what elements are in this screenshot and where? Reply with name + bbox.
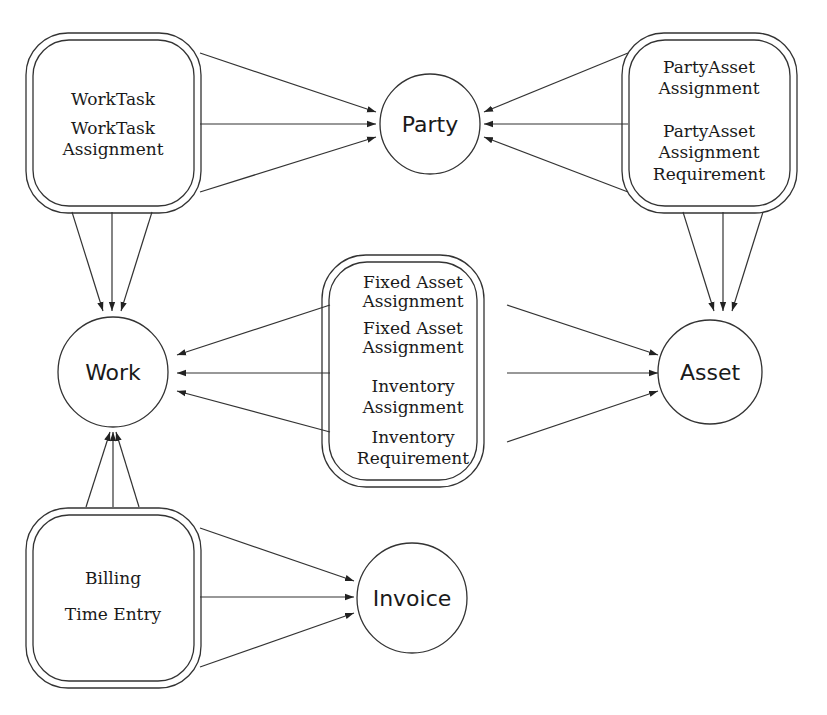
relationship-label: Assignment — [362, 397, 464, 417]
relationship-label: PartyAsset — [663, 121, 755, 141]
edge-fixedasset-asset-1 — [507, 305, 658, 355]
relationship-label: Assignment — [658, 142, 760, 162]
relationship-label: WorkTask — [71, 118, 156, 138]
entity-relationship-diagram: WorkTask WorkTask Assignment PartyAsset … — [0, 0, 827, 715]
relationship-label: Assignment — [62, 139, 164, 159]
entity-label: Work — [85, 360, 141, 385]
edge-partyasset-asset-1 — [683, 212, 714, 311]
relationship-label: Assignment — [658, 78, 760, 98]
entity-label: Invoice — [373, 586, 452, 611]
entity-invoice[interactable]: Invoice — [357, 543, 467, 653]
relationship-label: Inventory — [371, 427, 454, 447]
edge-fixedasset-work-3 — [177, 391, 330, 432]
edge-worktask-party-1 — [200, 53, 376, 112]
entity-party[interactable]: Party — [380, 74, 480, 174]
entity-label: Asset — [680, 360, 741, 385]
edge-worktask-party-3 — [200, 137, 376, 192]
edge-partyasset-party-1 — [484, 53, 628, 112]
entity-label: Party — [402, 112, 458, 137]
relationship-label: Assignment — [362, 291, 464, 311]
edge-billing-invoice-3 — [200, 613, 354, 667]
edge-fixedasset-work-1 — [177, 305, 330, 355]
relationship-label: Inventory — [371, 376, 454, 396]
relationship-label: Requirement — [653, 164, 765, 184]
relationship-label: Requirement — [357, 448, 469, 468]
relationship-label: Fixed Asset — [363, 318, 463, 338]
edge-billing-work-3 — [116, 432, 139, 507]
edge-billing-invoice-1 — [200, 528, 354, 581]
relationship-fixedasset-inventory[interactable]: Fixed Asset Assignment Fixed Asset Assig… — [322, 255, 484, 487]
entity-asset[interactable]: Asset — [658, 320, 762, 424]
edge-billing-work-1 — [86, 432, 110, 507]
edge-partyasset-party-3 — [484, 137, 628, 192]
relationship-label: Time Entry — [65, 604, 162, 624]
relationship-label: Fixed Asset — [363, 272, 463, 292]
relationship-label: WorkTask — [71, 89, 156, 109]
relationship-label: PartyAsset — [663, 57, 755, 77]
edge-worktask-work-1 — [72, 212, 103, 311]
relationship-worktask[interactable]: WorkTask WorkTask Assignment — [26, 33, 201, 213]
relationship-label: Billing — [85, 568, 141, 588]
relationship-billing[interactable]: Billing Time Entry — [26, 508, 201, 688]
edge-fixedasset-asset-3 — [507, 391, 658, 442]
edge-worktask-work-3 — [121, 212, 152, 311]
relationship-label: Assignment — [362, 337, 464, 357]
entity-work[interactable]: Work — [58, 317, 168, 427]
edge-partyasset-asset-3 — [732, 212, 763, 311]
relationship-partyasset[interactable]: PartyAsset Assignment PartyAsset Assignm… — [622, 33, 797, 213]
